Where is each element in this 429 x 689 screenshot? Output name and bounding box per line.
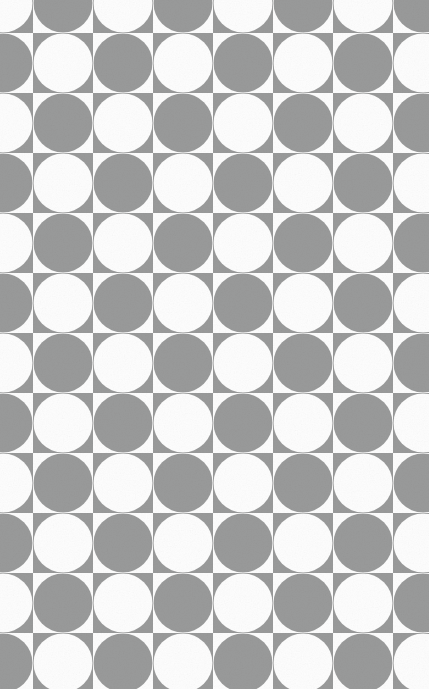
circle-checkerboard-svg [0,0,429,689]
pattern-fill-rect [0,0,429,689]
pattern-surface [0,0,429,689]
